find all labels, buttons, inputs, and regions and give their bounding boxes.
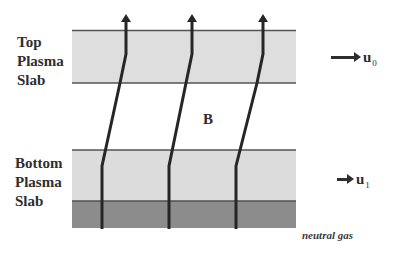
right-arrow-icon	[337, 178, 349, 181]
field-line-arrowheads	[121, 14, 268, 22]
label-line: Bottom	[15, 154, 63, 173]
label-line: Top	[17, 33, 64, 52]
bottom-plasma-slab-label: Bottom Plasma Slab	[15, 154, 63, 211]
label-line: Slab	[15, 192, 63, 211]
label-line: Slab	[17, 71, 64, 90]
neutral-gas-label: neutral gas	[302, 229, 353, 241]
bottom-slab-velocity: u1	[337, 171, 370, 188]
magnetic-field-label: B	[203, 111, 213, 128]
arrowhead-icon	[258, 14, 268, 22]
velocity-symbol: u	[363, 49, 371, 66]
bottom-plasma-slab	[72, 150, 296, 201]
label-line: Plasma	[15, 173, 63, 192]
neutral-gas-layer	[72, 201, 296, 228]
arrowhead-icon	[121, 14, 131, 22]
right-arrow-icon	[331, 56, 356, 59]
velocity-symbol: u	[356, 171, 364, 188]
label-line: Plasma	[17, 52, 64, 71]
top-plasma-slab-label: Top Plasma Slab	[17, 33, 64, 90]
velocity-subscript: 0	[372, 58, 377, 68]
arrowhead-icon	[187, 14, 197, 22]
plasma-slab-diagram: Top Plasma Slab Bottom Plasma Slab B u0 …	[0, 0, 399, 254]
top-slab-velocity: u0	[331, 49, 377, 66]
velocity-subscript: 1	[365, 180, 370, 190]
